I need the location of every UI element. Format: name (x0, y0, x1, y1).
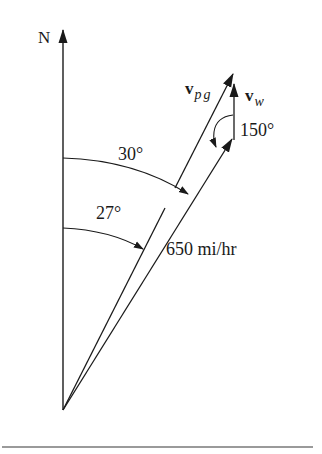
vector-diagram: N vpg vw 150° 30° 27° 650 mi/hr (0, 0, 322, 454)
speed-label: 650 mi/hr (166, 240, 237, 258)
heading-angle-label: 30° (118, 145, 143, 163)
angle-arc-27 (63, 228, 143, 249)
bottom-divider (2, 446, 313, 448)
vw-subscript: w (255, 94, 266, 109)
vw-symbol: v (245, 86, 254, 105)
diagram-canvas (0, 0, 322, 454)
heading-vector (63, 139, 232, 410)
vw-label: vw (245, 87, 266, 104)
wind-angle-label: 150° (240, 121, 274, 139)
vpg-subscript: pg (195, 87, 213, 102)
vpg-label: vpg (185, 80, 213, 97)
vpg-symbol: v (185, 79, 194, 98)
ground-angle-label: 27° (96, 204, 121, 222)
north-label: N (38, 29, 50, 46)
